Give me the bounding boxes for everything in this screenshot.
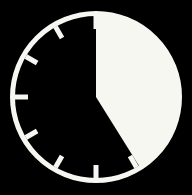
clock-timer-icon-root [0, 0, 192, 195]
clock-timer-graphic [0, 0, 192, 195]
